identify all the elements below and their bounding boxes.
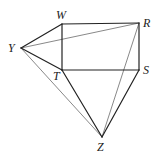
diagram-canvas: W R Y T S Z xyxy=(0,0,164,157)
edge-wr xyxy=(62,23,139,24)
label-r: R xyxy=(142,16,151,30)
edge-tz xyxy=(62,70,102,137)
geometry-figure: W R Y T S Z xyxy=(0,0,164,157)
edge-yw xyxy=(21,24,62,48)
edge-yr-thin xyxy=(21,23,139,48)
label-t: T xyxy=(53,69,61,83)
label-y: Y xyxy=(8,41,16,55)
edge-yt xyxy=(21,48,62,70)
label-w: W xyxy=(56,8,67,22)
vertex-labels: W R Y T S Z xyxy=(8,8,151,154)
thick-edges xyxy=(21,23,139,137)
thin-edges xyxy=(21,23,139,137)
label-z: Z xyxy=(97,140,104,154)
label-s: S xyxy=(143,63,149,77)
